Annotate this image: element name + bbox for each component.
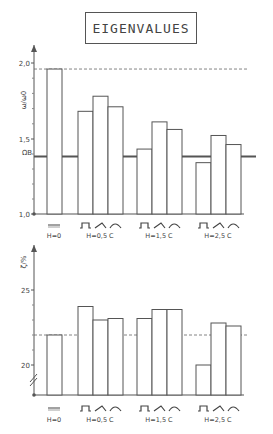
- svg-text:1,0: 1,0: [19, 211, 30, 219]
- group-label: H=1,5 C: [145, 232, 173, 240]
- bar: [226, 145, 241, 214]
- bar: [226, 326, 241, 395]
- svg-text:20: 20: [21, 362, 30, 370]
- chart-1: 2,01,51,0ω/ω0ΩBH=0H=0,5 CH=1,5 CH=2,5 C: [19, 45, 256, 240]
- group-label: H=0,5 C: [86, 232, 114, 240]
- bar: [78, 111, 93, 214]
- bar: [108, 107, 123, 214]
- group-label: H=0,5 C: [86, 416, 114, 424]
- bar: [93, 96, 108, 214]
- group-label: H=2,5 C: [204, 416, 232, 424]
- svg-text:2,0: 2,0: [19, 60, 30, 68]
- bar: [78, 307, 93, 396]
- bar: [211, 135, 226, 214]
- bar: [211, 323, 226, 395]
- bar: [167, 129, 182, 214]
- bar: [137, 319, 152, 396]
- group-label: H=2,5 C: [204, 232, 232, 240]
- bar: [108, 319, 123, 396]
- svg-text:1,5: 1,5: [19, 136, 30, 144]
- group-label: H=0: [47, 232, 61, 240]
- svg-text:ω/ω0: ω/ω0: [20, 91, 28, 110]
- svg-text:ζ/%: ζ/%: [20, 255, 28, 268]
- svg-text:ΩB: ΩB: [22, 149, 32, 157]
- group-label: H=0: [47, 416, 61, 424]
- bar: [196, 365, 211, 395]
- bar: [196, 163, 211, 214]
- svg-text:25: 25: [21, 287, 30, 295]
- bar: [152, 122, 167, 214]
- bar: [152, 310, 167, 396]
- group-label: H=1,5 C: [145, 416, 173, 424]
- eigenvalue-charts: 2,01,51,0ω/ω0ΩBH=0H=0,5 CH=1,5 CH=2,5 C2…: [0, 0, 273, 434]
- bar: [93, 320, 108, 395]
- bar: [47, 69, 62, 214]
- bar: [47, 335, 62, 395]
- chart-2: 2520ζ/%H=0H=0,5 CH=1,5 CH=2,5 C: [20, 245, 248, 424]
- bar: [137, 149, 152, 214]
- bar: [167, 310, 182, 396]
